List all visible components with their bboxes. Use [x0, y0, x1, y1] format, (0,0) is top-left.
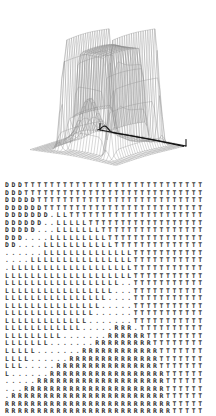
surface-wireframe-svg [0, 0, 216, 178]
character-grid-row: RRRRRRRRRRRRRRRRRRRRRRRRRRTTTTT [5, 408, 205, 416]
surface-plot-panel [0, 0, 216, 178]
character-grid: DDDTTTTTTTTTTTTTTTTTTTTTTTTTTTTDDDTTTTTT… [5, 182, 205, 416]
character-grid-cell: T [198, 408, 204, 416]
surface-background [0, 0, 216, 178]
character-grid-panel: DDDTTTTTTTTTTTTTTTTTTTTTTTTTTTTDDDTTTTTT… [0, 180, 216, 390]
